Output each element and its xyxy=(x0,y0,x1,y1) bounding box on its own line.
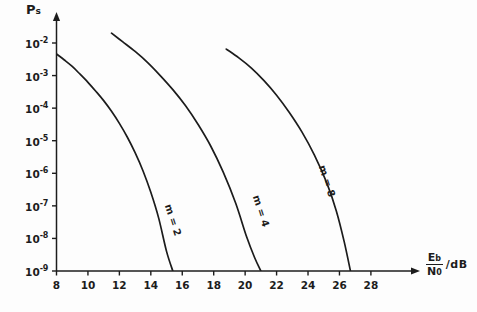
y-tick-mantissa: 10 xyxy=(25,135,40,147)
y-axis-arrowhead xyxy=(53,12,60,21)
y-tick-mantissa: 10 xyxy=(25,201,40,213)
x-tick-label: 12 xyxy=(112,279,127,291)
y-tick-label: 10-3 xyxy=(4,69,48,83)
x-tick-label: 10 xyxy=(81,279,96,291)
y-tick-mantissa: 10 xyxy=(25,168,40,180)
x-tick-label: 26 xyxy=(332,279,347,291)
x-axis-title-denominator: N0 xyxy=(426,266,443,277)
y-tick-mantissa: 10 xyxy=(25,38,40,50)
x-axis-arrowhead xyxy=(411,267,420,274)
y-tick-label: 10-5 xyxy=(4,134,48,148)
y-tick-mantissa: 10 xyxy=(25,70,40,82)
y-axis-title: Ps xyxy=(26,2,41,17)
x-tick-label: 22 xyxy=(269,279,284,291)
y-tick-mantissa: 10 xyxy=(25,233,40,245)
x-axis-num-sub: b xyxy=(435,254,441,263)
y-tick-label: 10-7 xyxy=(4,199,48,213)
y-tick-label: 10-9 xyxy=(4,264,48,278)
y-axis-title-sub: s xyxy=(36,6,41,16)
x-tick-label: 20 xyxy=(238,279,253,291)
y-tick-exponent: -7 xyxy=(40,199,48,208)
y-tick-exponent: -2 xyxy=(40,36,48,45)
axes-group xyxy=(53,12,420,275)
y-tick-exponent: -9 xyxy=(40,264,48,273)
chart-figure: Ps Eb N0 /dB 10-210-310-410-510-610-710-… xyxy=(0,0,477,312)
x-axis-title: Eb N0 /dB xyxy=(426,252,468,277)
y-tick-mantissa: 10 xyxy=(25,103,40,115)
x-axis-units: /dB xyxy=(446,258,468,271)
x-axis-den-main: N xyxy=(427,265,436,278)
ticks-group xyxy=(52,43,371,276)
x-axis-den-sub: 0 xyxy=(436,268,442,277)
y-tick-exponent: -6 xyxy=(40,167,48,176)
curve-1 xyxy=(55,53,173,271)
curves-group xyxy=(55,33,351,271)
y-tick-mantissa: 10 xyxy=(25,266,40,278)
y-tick-exponent: -5 xyxy=(40,134,48,143)
y-tick-exponent: -3 xyxy=(40,69,48,78)
x-tick-label: 16 xyxy=(175,279,190,291)
y-tick-label: 10-2 xyxy=(4,36,48,50)
x-tick-label: 14 xyxy=(144,279,159,291)
y-tick-label: 10-6 xyxy=(4,167,48,181)
x-tick-label: 18 xyxy=(206,279,221,291)
x-axis-title-numerator: Eb xyxy=(427,252,442,263)
y-tick-label: 10-4 xyxy=(4,101,48,115)
curve-3 xyxy=(226,49,350,271)
x-tick-label: 8 xyxy=(53,279,60,291)
x-tick-label: 28 xyxy=(364,279,379,291)
y-axis-title-main: P xyxy=(26,2,36,17)
y-tick-exponent: -4 xyxy=(40,101,48,110)
plot-area xyxy=(0,0,477,312)
y-tick-label: 10-8 xyxy=(4,232,48,246)
x-tick-label: 24 xyxy=(301,279,316,291)
x-axis-title-fraction: Eb N0 xyxy=(426,252,443,277)
y-tick-exponent: -8 xyxy=(40,232,48,241)
